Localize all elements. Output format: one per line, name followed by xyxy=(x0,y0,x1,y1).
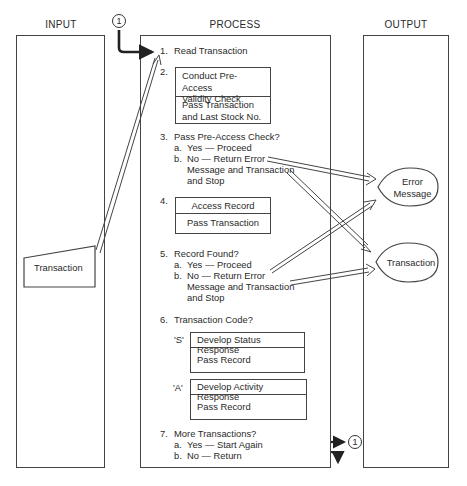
connector-label: 1 xyxy=(116,16,121,26)
step3-number: 3. xyxy=(160,131,168,143)
output-error-line2: Message xyxy=(390,188,435,200)
step2-box-bottom-line1: Pass Transaction xyxy=(182,99,264,111)
step6-label: Transaction Code? xyxy=(174,314,253,326)
step4-box: Access Record Pass Transaction xyxy=(175,197,271,234)
step7-b-number: b. xyxy=(174,450,182,462)
step5-number: 5. xyxy=(160,248,168,260)
step1-number: 1. xyxy=(160,45,168,57)
step4-box-top: Access Record xyxy=(176,198,270,213)
step3-b-line2: Message and Transaction xyxy=(187,164,294,176)
step3-a-label: Yes — Proceed xyxy=(187,142,252,154)
step4-number: 4. xyxy=(160,195,168,207)
step7-number: 7. xyxy=(160,428,168,440)
step3-label: Pass Pre-Access Check? xyxy=(174,131,280,143)
step6-a-code: 'A' xyxy=(173,382,183,394)
step2-box-top: Conduct Pre-Access Validity Check xyxy=(176,68,270,96)
step7-b-label: No — Return xyxy=(187,450,242,462)
step5-b-line2: Message and Transaction xyxy=(187,281,294,293)
step2-box-top-line1: Conduct Pre-Access xyxy=(182,70,264,93)
input-transaction-label: Transaction xyxy=(34,262,83,274)
step2-number: 2. xyxy=(160,66,168,78)
step4-box-bottom: Pass Transaction xyxy=(176,213,270,231)
connector-1-bottom: 1 xyxy=(348,435,362,449)
output-transaction: Transaction xyxy=(386,257,436,269)
step1-label: Read Transaction xyxy=(174,45,247,57)
step3-b-number: b. xyxy=(174,153,182,165)
step2-box: Conduct Pre-Access Validity Check Pass T… xyxy=(175,67,271,124)
step3-b-line1: No — Return Error xyxy=(187,153,265,165)
step6-s-box-top: Develop Status Response xyxy=(191,333,304,347)
step3-b-line3: and Stop xyxy=(187,175,225,187)
step6-s-code: 'S' xyxy=(174,334,184,346)
step6-number: 6. xyxy=(160,314,168,326)
step5-b-number: b. xyxy=(174,270,182,282)
step7-a-label: Yes — Start Again xyxy=(187,439,263,451)
step5-b-line3: and Stop xyxy=(187,292,225,304)
step2-box-bottom-line2: and Last Stock No. xyxy=(182,111,264,123)
connector-1-top: 1 xyxy=(112,14,126,28)
step6-a-box: Develop Activity Response Pass Record xyxy=(190,379,307,420)
step5-a-label: Yes — Proceed xyxy=(187,259,252,271)
step7-label: More Transactions? xyxy=(174,428,256,440)
step5-b-line1: No — Return Error xyxy=(187,270,265,282)
connector-label: 1 xyxy=(352,437,357,447)
step3-a-number: a. xyxy=(174,142,182,154)
step6-a-box-top: Develop Activity Response xyxy=(191,380,306,394)
step6-s-box: Develop Status Response Pass Record xyxy=(190,332,305,373)
step7-a-number: a. xyxy=(174,439,182,451)
step5-label: Record Found? xyxy=(174,248,239,260)
step2-box-bottom: Pass Transaction and Last Stock No. xyxy=(176,96,270,124)
output-error-line1: Error xyxy=(390,176,435,188)
step5-a-number: a. xyxy=(174,259,182,271)
output-error-message: Error Message xyxy=(390,176,435,199)
